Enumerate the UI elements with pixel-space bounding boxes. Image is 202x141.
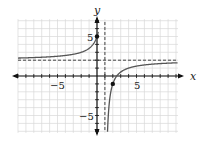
graph-canvas: y x −5 5 5 −5 <box>0 0 202 141</box>
x-axis-label: x <box>190 70 197 83</box>
rational-function-graph: y x −5 5 5 −5 <box>0 0 202 141</box>
y-axis-label: y <box>93 4 101 17</box>
y-tick-label-5: 5 <box>87 32 93 43</box>
data-point <box>95 34 99 38</box>
y-tick-label-neg5: −5 <box>79 111 94 122</box>
x-tick-label-5: 5 <box>134 80 140 91</box>
x-tick-label-neg5: −5 <box>50 80 65 91</box>
data-point <box>111 82 115 86</box>
